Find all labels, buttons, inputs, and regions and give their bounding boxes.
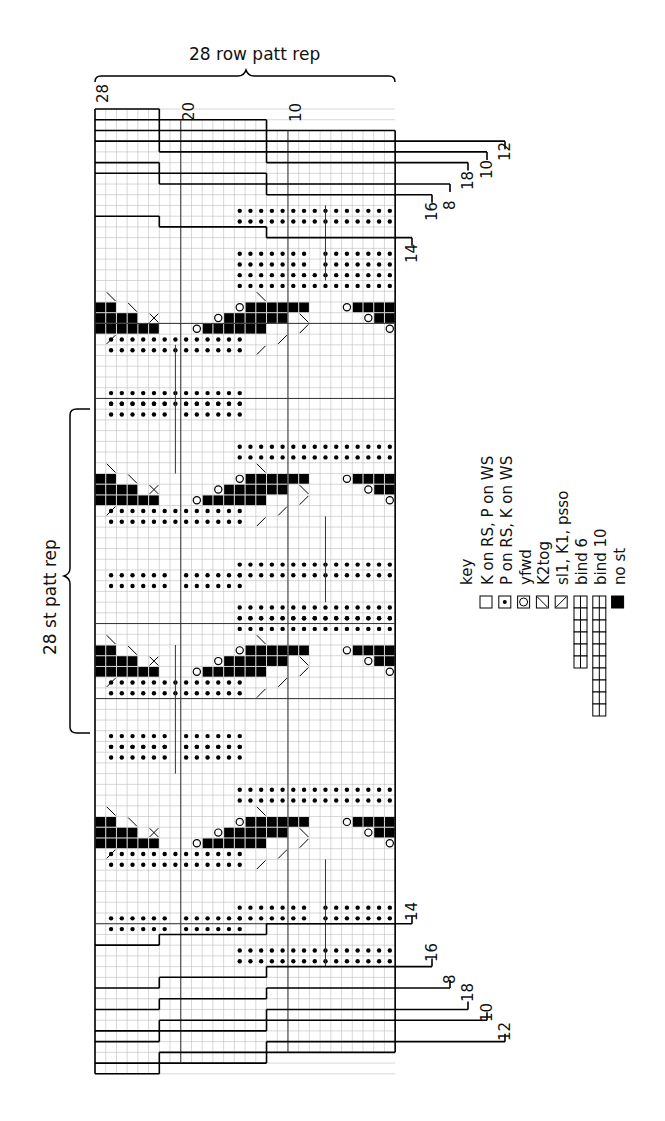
yfwd-circle bbox=[193, 497, 200, 504]
no-stitch-cell bbox=[96, 313, 106, 323]
purl-dot bbox=[259, 455, 263, 459]
k2tog-slash bbox=[107, 292, 116, 301]
purl-dot bbox=[323, 627, 327, 631]
purl-dot bbox=[388, 798, 392, 802]
purl-dot bbox=[323, 605, 327, 609]
purl-dot bbox=[238, 584, 242, 588]
bind-off-label: 8 bbox=[441, 974, 459, 984]
purl-dot bbox=[184, 509, 188, 513]
purl-dot bbox=[388, 252, 392, 256]
no-stitch-cell bbox=[235, 324, 245, 334]
purl-dot bbox=[205, 348, 209, 352]
bind-off-label: 18 bbox=[459, 983, 477, 1002]
skpo-slash bbox=[278, 678, 287, 687]
purl-dot bbox=[162, 412, 166, 416]
bind-off-label: 14 bbox=[403, 902, 421, 921]
purl-dot bbox=[280, 916, 284, 920]
no-stitch-cell bbox=[224, 656, 234, 666]
purl-dot bbox=[302, 798, 306, 802]
no-stitch-cell bbox=[246, 474, 256, 484]
purl-dot bbox=[227, 916, 231, 920]
purl-dot bbox=[377, 627, 381, 631]
no-stitch-cell bbox=[106, 302, 116, 312]
no-stitch-cell bbox=[246, 656, 256, 666]
no-stitch-cell bbox=[385, 474, 395, 484]
no-stitch-cell bbox=[256, 302, 266, 312]
no-stitch-cell bbox=[224, 838, 234, 848]
no-stitch-cell bbox=[117, 495, 127, 505]
purl-dot bbox=[345, 788, 349, 792]
purl-dot bbox=[162, 337, 166, 341]
yfwd-circle bbox=[365, 486, 372, 493]
purl-dot bbox=[184, 745, 188, 749]
no-stitch-cell bbox=[96, 495, 106, 505]
k2tog-slash bbox=[257, 807, 266, 816]
purl-dot bbox=[130, 927, 134, 931]
purl-dot bbox=[291, 948, 295, 952]
row-number-label: 28 bbox=[94, 84, 112, 103]
no-stitch-cell bbox=[374, 474, 384, 484]
no-stitch-cell bbox=[374, 646, 384, 656]
purl-dot bbox=[259, 262, 263, 266]
purl-dot bbox=[238, 284, 242, 288]
no-stitch-cell bbox=[235, 838, 245, 848]
no-stitch-cell bbox=[203, 667, 213, 677]
no-stitch-cell bbox=[267, 474, 277, 484]
purl-dot bbox=[280, 284, 284, 288]
purl-dot bbox=[334, 616, 338, 620]
purl-dot bbox=[141, 916, 145, 920]
purl-dot bbox=[227, 852, 231, 856]
purl-dot bbox=[205, 691, 209, 695]
no-stitch-cell bbox=[106, 474, 116, 484]
purl-dot bbox=[248, 573, 252, 577]
purl-dot bbox=[259, 905, 263, 909]
purl-dot bbox=[109, 348, 113, 352]
key-label-nost: no st bbox=[611, 548, 629, 585]
purl-dot bbox=[280, 948, 284, 952]
purl-dot bbox=[313, 948, 317, 952]
purl-dot bbox=[238, 627, 242, 631]
purl-dot bbox=[313, 616, 317, 620]
no-stitch-cell bbox=[385, 646, 395, 656]
purl-dot bbox=[313, 562, 317, 566]
purl-dot bbox=[152, 402, 156, 406]
purl-dot bbox=[388, 916, 392, 920]
purl-dot bbox=[248, 284, 252, 288]
purl-dot bbox=[130, 509, 134, 513]
purl-dot bbox=[141, 402, 145, 406]
purl-dot bbox=[302, 284, 306, 288]
no-stitch-cell bbox=[96, 838, 106, 848]
no-stitch-cell bbox=[299, 646, 309, 656]
purl-dot bbox=[302, 252, 306, 256]
purl-dot bbox=[259, 219, 263, 223]
purl-dot bbox=[270, 455, 274, 459]
purl-dot bbox=[291, 798, 295, 802]
yfwd-circle bbox=[386, 668, 393, 675]
no-stitch-cell bbox=[246, 324, 256, 334]
no-stitch-cell bbox=[96, 646, 106, 656]
purl-dot bbox=[238, 562, 242, 566]
purl-dot bbox=[259, 798, 263, 802]
row-number-label: 10 bbox=[287, 103, 305, 122]
purl-dot bbox=[334, 562, 338, 566]
purl-dot bbox=[313, 273, 317, 277]
purl-dot bbox=[291, 905, 295, 909]
no-stitch-cell bbox=[353, 646, 363, 656]
purl-dot bbox=[120, 509, 124, 513]
purl-dot bbox=[248, 616, 252, 620]
no-stitch-cell bbox=[256, 828, 266, 838]
bind-off-label: 16 bbox=[423, 202, 441, 221]
purl-dot bbox=[355, 605, 359, 609]
bind-off-label: 10 bbox=[478, 1003, 496, 1022]
purl-dot bbox=[334, 916, 338, 920]
purl-dot bbox=[238, 337, 242, 341]
purl-dot bbox=[334, 209, 338, 213]
purl-dot bbox=[120, 863, 124, 867]
no-stitch-cell bbox=[138, 495, 148, 505]
purl-dot bbox=[184, 573, 188, 577]
purl-dot bbox=[152, 852, 156, 856]
purl-dot bbox=[355, 562, 359, 566]
purl-dot bbox=[162, 584, 166, 588]
purl-dot bbox=[323, 444, 327, 448]
no-stitch-cell bbox=[235, 656, 245, 666]
